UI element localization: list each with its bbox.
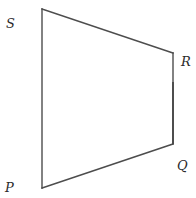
vertex-label-s: S <box>6 16 15 31</box>
vertex-label-p: P <box>4 180 14 195</box>
edge-sr <box>42 9 173 53</box>
quadrilateral-figure: S R Q P <box>0 0 196 198</box>
vertex-label-q: Q <box>177 158 188 173</box>
edge-qp <box>42 144 173 188</box>
vertex-label-r: R <box>180 54 191 69</box>
